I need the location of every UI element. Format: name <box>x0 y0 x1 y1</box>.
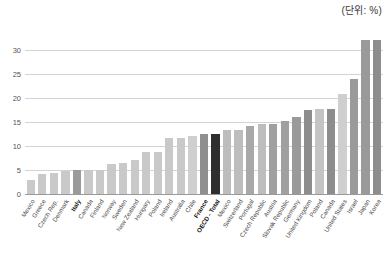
x-axis-labels: MexicoGreeceCzech Rep.DenmarkItalyCanada… <box>25 196 383 258</box>
x-label-slot: United States <box>337 196 349 258</box>
bar <box>142 152 150 194</box>
bar <box>84 170 92 194</box>
bar-slot <box>25 38 37 194</box>
x-label-slot: New Zealand <box>129 196 141 258</box>
bar <box>188 136 196 194</box>
bar-slot <box>325 38 337 194</box>
bar-chart: (단위: %) 051015202530 MexicoGreeceCzech R… <box>0 0 388 259</box>
x-label-slot: Israel <box>348 196 360 258</box>
bar <box>361 40 369 194</box>
bar-slot <box>233 38 245 194</box>
bar-slot <box>337 38 349 194</box>
bar-slot <box>314 38 326 194</box>
bar-slot <box>198 38 210 194</box>
unit-caption: (단위: %) <box>341 2 382 17</box>
bar <box>327 109 335 194</box>
x-label-slot: Denmark <box>60 196 72 258</box>
bar <box>246 126 254 194</box>
bar <box>154 152 162 194</box>
bar <box>281 121 289 194</box>
x-label-slot: Ireland <box>164 196 176 258</box>
bar <box>38 174 46 194</box>
bar <box>338 94 346 194</box>
bar <box>269 124 277 194</box>
bar-slot <box>60 38 72 194</box>
bar-slot <box>221 38 233 194</box>
bar-slot <box>83 38 95 194</box>
bar-slot <box>140 38 152 194</box>
bar-slot <box>94 38 106 194</box>
bar-slot <box>106 38 118 194</box>
bar <box>73 170 81 194</box>
bar-slot <box>152 38 164 194</box>
bar-slot <box>129 38 141 194</box>
bar-slot <box>210 38 222 194</box>
bar <box>223 130 231 194</box>
bar <box>258 124 266 194</box>
bar <box>234 130 242 194</box>
x-label-slot: Mexico <box>25 196 37 258</box>
y-tick-label: 30 <box>13 46 21 55</box>
bar-slot <box>302 38 314 194</box>
bar-slot <box>244 38 256 194</box>
bar <box>350 79 358 194</box>
bar <box>50 173 58 194</box>
x-label-slot: Hungary <box>140 196 152 258</box>
bar-slot <box>360 38 372 194</box>
plot-area: 051015202530 <box>25 38 383 194</box>
bar <box>211 134 219 194</box>
bar-slot <box>348 38 360 194</box>
bar-slot <box>187 38 199 194</box>
x-label-slot: Korea <box>371 196 383 258</box>
bar <box>315 109 323 194</box>
y-tick-label: 5 <box>17 166 21 175</box>
bar <box>177 138 185 194</box>
x-label-slot: Japan <box>360 196 372 258</box>
axis-baseline <box>25 194 383 195</box>
bar-slot <box>267 38 279 194</box>
bar-slot <box>291 38 303 194</box>
x-label-slot: Finland <box>94 196 106 258</box>
bar <box>96 170 104 194</box>
bar <box>107 164 115 194</box>
bar-slot <box>164 38 176 194</box>
x-label-slot: Canada <box>83 196 95 258</box>
bar-slot <box>117 38 129 194</box>
y-tick-label: 25 <box>13 70 21 79</box>
bar <box>61 171 69 194</box>
bar <box>373 40 381 194</box>
bar-slot <box>48 38 60 194</box>
bar-slot <box>71 38 83 194</box>
x-label-slot: Italy <box>71 196 83 258</box>
bar <box>165 138 173 194</box>
bar-slot <box>371 38 383 194</box>
x-label-slot: OECD - Total <box>210 196 222 258</box>
y-tick-label: 0 <box>17 190 21 199</box>
bar-slot <box>279 38 291 194</box>
bar-slot <box>256 38 268 194</box>
bar <box>119 163 127 194</box>
y-tick-label: 20 <box>13 94 21 103</box>
y-tick-label: 15 <box>13 118 21 127</box>
bar <box>131 160 139 194</box>
y-tick-label: 10 <box>13 142 21 151</box>
bar <box>292 117 300 194</box>
bar-slot <box>175 38 187 194</box>
bars-container <box>25 38 383 194</box>
bar <box>27 180 35 194</box>
bar-slot <box>37 38 49 194</box>
bar <box>304 110 312 194</box>
bar <box>200 134 208 194</box>
